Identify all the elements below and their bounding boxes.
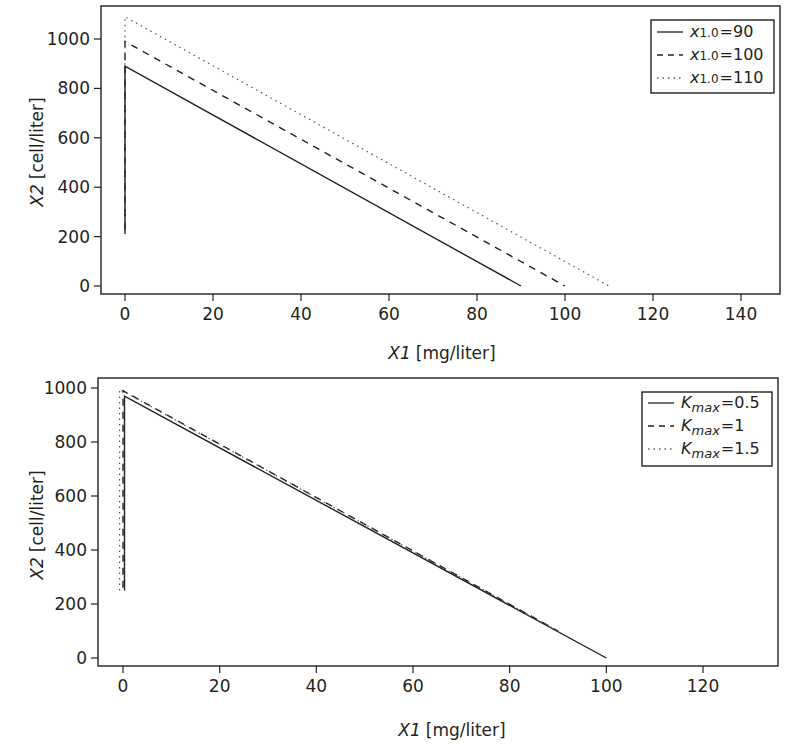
top-legend: x1.0=90x1.0=100x1.0=110 [651,20,774,93]
x-tick-label: 140 [725,304,757,324]
top-plot: 02004006008001000 020406080100120140 X1[… [27,6,780,363]
y-tick-label: 600 [58,128,90,148]
top-series-group [125,17,609,286]
y-tick-label: 0 [76,648,87,668]
bottom-legend: Kmax=0.5Kmax=1Kmax=1.5 [642,392,772,466]
x-tick-label: 120 [637,304,669,324]
legend-label: Kmax=1.5 [681,439,760,461]
x-tick-label: 0 [120,304,131,324]
y-tick-label: 800 [58,78,90,98]
bottom-y-axis: 02004006008001000 [44,378,98,668]
legend-label: x1.0=110 [689,68,764,87]
x-tick-label: 40 [306,676,328,696]
legend-label: x1.0=90 [689,22,753,41]
legend-label: x1.0=100 [689,45,764,64]
x-tick-label: 80 [466,304,488,324]
x-tick-label: 60 [378,304,400,324]
bottom-plot: 02004006008001000 020406080100120 X1[mg/… [27,378,778,740]
x-tick-label: 20 [209,676,231,696]
figure: 02004006008001000 020406080100120140 X1[… [0,0,801,746]
bottom-plot-frame [98,378,778,666]
series-line-solid [125,66,521,286]
y-tick-label: 400 [58,177,90,197]
legend-label: Kmax=1 [681,416,744,438]
series-line-dashed [125,42,565,287]
x-tick-label: 60 [402,676,424,696]
top-plot-frame [101,6,780,294]
top-x-axis: 020406080100120140 [120,294,758,324]
top-x-axis-label: X1[mg/liter] [387,343,495,363]
series-line-dotted [120,389,558,631]
x-tick-label: 0 [118,676,129,696]
top-y-axis-label: X2[cell/liter] [27,97,47,207]
y-tick-label: 0 [79,276,90,296]
y-tick-label: 800 [55,432,87,452]
top-y-axis: 02004006008001000 [47,29,101,296]
series-line-dotted [125,17,609,286]
y-tick-label: 400 [55,540,87,560]
y-tick-label: 1000 [44,378,87,398]
bottom-y-axis-label: X2[cell/liter] [27,470,47,580]
y-tick-label: 600 [55,486,87,506]
bottom-x-axis: 020406080100120 [118,666,720,696]
y-tick-label: 200 [55,594,87,614]
y-tick-label: 200 [58,227,90,247]
legend-label: Kmax=0.5 [681,393,760,415]
bottom-x-axis-label: X1[mg/liter] [397,720,505,740]
bottom-series-group [120,389,607,658]
x-tick-label: 20 [202,304,224,324]
x-tick-label: 120 [687,676,719,696]
series-line-solid [125,396,607,658]
x-tick-label: 100 [549,304,581,324]
x-tick-label: 80 [499,676,521,696]
x-tick-label: 40 [290,304,312,324]
y-tick-label: 1000 [47,29,90,49]
x-tick-label: 100 [590,676,622,696]
